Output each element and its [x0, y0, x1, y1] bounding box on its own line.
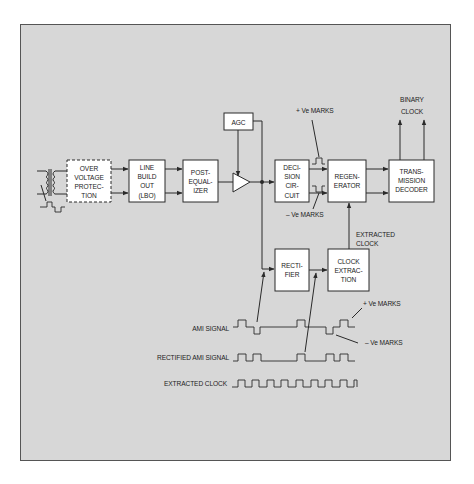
- extracted-clock-waveform: [232, 380, 357, 387]
- pos-mark-pulse: [312, 158, 325, 164]
- neg-marks-bottom-label: – Ve MARKS: [365, 339, 403, 346]
- binary-label: BINARY: [400, 96, 425, 103]
- rectifier-block: RECTI-FIER: [275, 249, 309, 291]
- ami-signal-waveform: [233, 320, 355, 334]
- extracted-clock-label: CLOCK: [356, 240, 379, 247]
- svg-text:AGC: AGC: [232, 119, 246, 126]
- transmission-decoder-block: TRANS-MISSIONDECODER: [389, 160, 434, 202]
- regenerator-block: REGEN-ERATOR: [328, 160, 366, 202]
- rectified-ami-waveform: [233, 354, 355, 361]
- decision-circuit-block: DECI-SIONCIR-CUIT: [275, 160, 309, 202]
- line-build-out-block: LINEBUILDOUT(LBO): [129, 160, 165, 202]
- transformer-icon: [37, 169, 65, 212]
- clock-extraction-block: CLOCKEXTRAC-TION: [328, 249, 369, 291]
- post-equalizer-block: POST-EQUAL-IZER: [183, 160, 218, 202]
- block-diagram: OVERVOLTAGEPROTEC-TION LINEBUILDOUT(LBO)…: [0, 0, 474, 484]
- ami-signal-label: AMI SIGNAL: [192, 325, 229, 332]
- svg-text:TRANS-MISSIONDECODER: TRANS-MISSIONDECODER: [395, 168, 428, 193]
- pos-marks-top-label: + Ve MARKS: [296, 107, 334, 114]
- extracted-label: EXTRACTED: [356, 231, 395, 238]
- agc-block: AGC: [224, 113, 253, 130]
- rectified-ami-label: RECTIFIED AMI SIGNAL: [157, 354, 229, 361]
- svg-text:DECI-SIONCIR-CUIT: DECI-SIONCIR-CUIT: [283, 164, 300, 199]
- over-voltage-protection-block: OVERVOLTAGEPROTEC-TION: [67, 160, 111, 202]
- neg-marks-top-label: – Ve MARKS: [286, 211, 324, 218]
- extracted-clock-wave-label: EXTRACTED CLOCK: [164, 380, 228, 387]
- pos-marks-bottom-label: + Ve MARKS: [363, 300, 401, 307]
- neg-mark-pulse: [312, 186, 325, 192]
- clock-label: CLOCK: [401, 108, 424, 115]
- amplifier-icon: [233, 173, 250, 192]
